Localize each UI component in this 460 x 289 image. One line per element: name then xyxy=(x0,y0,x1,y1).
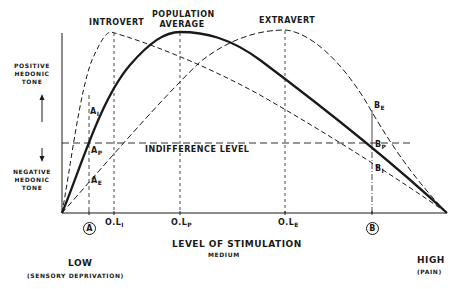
indifference-label: INDIFFERENCE LEVEL xyxy=(145,146,249,154)
x-axis-high-note: (PAIN) xyxy=(417,269,442,275)
population-curve xyxy=(62,32,447,213)
x-axis-medium: MEDIUM xyxy=(208,252,240,258)
negative-arrowhead xyxy=(40,156,45,162)
negative-label-line1: NEGATIVE xyxy=(9,169,55,175)
x-axis-high: HIGH xyxy=(417,256,445,265)
introvert-label: INTROVERT xyxy=(89,19,144,27)
point-A-P: AP xyxy=(91,147,103,155)
population-label-line1: POPULATION xyxy=(152,11,212,19)
point-B-P: BP xyxy=(375,141,387,149)
point-B-I: BI xyxy=(375,165,384,173)
tick-label-OL-E: O.LE xyxy=(278,219,299,227)
positive-label-line2: HEDONIC xyxy=(9,71,55,77)
positive-label-line3: TONE xyxy=(9,79,55,85)
x-axis-low-note: (SENSORY DEPRIVATION) xyxy=(27,273,124,279)
point-B-E: BE xyxy=(374,102,385,110)
introvert-curve xyxy=(62,32,447,213)
tick-label-OL-I: O.LI xyxy=(105,219,124,227)
point-A-E: AE xyxy=(91,177,102,185)
population-label-line2: AVERAGE xyxy=(152,21,212,29)
extravert-label: EXTRAVERT xyxy=(259,17,315,25)
point-A-I: AI xyxy=(90,108,99,116)
negative-label-line2: HEDONIC xyxy=(9,177,55,183)
positive-label-line1: POSITIVE xyxy=(9,63,55,69)
negative-label-line3: TONE xyxy=(9,185,55,191)
x-axis-low: LOW xyxy=(68,259,93,268)
tick-label-B: B xyxy=(366,218,379,235)
tick-label-OL-P: O.LP xyxy=(171,219,192,227)
x-axis-title: LEVEL OF STIMULATION xyxy=(172,240,302,249)
tick-label-A: A xyxy=(83,218,96,235)
positive-arrowhead xyxy=(40,94,45,100)
